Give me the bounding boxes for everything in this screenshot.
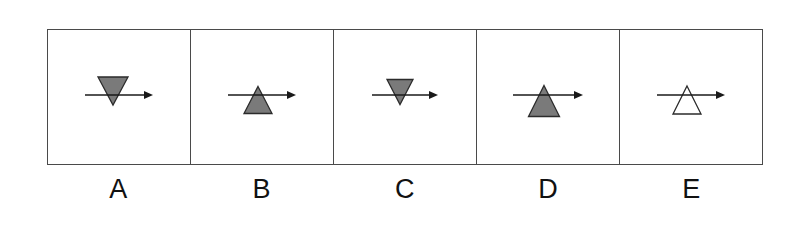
panel-cell-b — [191, 30, 334, 164]
arrow-head — [574, 91, 583, 99]
arrow-head — [144, 91, 153, 99]
arrow-head — [287, 91, 296, 99]
up-triangle-with-right-arrow — [498, 65, 598, 125]
figure-root: A B C D E — [0, 0, 801, 240]
stimulus-d — [498, 65, 598, 129]
panel-label-cell-c: C — [333, 176, 476, 220]
panel-cell-c — [334, 30, 477, 164]
arrow-head — [429, 91, 438, 99]
triangle-up — [244, 87, 272, 114]
panel-label-cell-d: D — [477, 176, 620, 220]
stimulus-a — [69, 65, 169, 129]
triangle-up — [673, 86, 701, 114]
panel-cell-a — [48, 30, 191, 164]
triangle-down — [98, 77, 128, 105]
triangle-up — [529, 86, 560, 117]
panel-label-row: A B C D E — [47, 176, 763, 220]
panel-label-c: C — [395, 176, 415, 203]
up-triangle-outline-with-right-arrow — [641, 65, 741, 125]
panel-label-d: D — [538, 176, 558, 203]
panel-label-cell-e: E — [620, 176, 763, 220]
panel-cell-e — [620, 30, 762, 164]
panel-strip — [47, 29, 763, 165]
panel-label-a: A — [109, 176, 128, 203]
panel-cell-d — [477, 30, 620, 164]
down-triangle-with-right-arrow — [69, 65, 169, 125]
arrow-head — [716, 91, 725, 99]
panel-label-b: B — [253, 176, 272, 203]
up-triangle-with-right-arrow — [212, 65, 312, 125]
panel-label-cell-b: B — [190, 176, 333, 220]
panel-label-cell-a: A — [47, 176, 190, 220]
down-triangle-with-right-arrow — [355, 65, 455, 125]
stimulus-b — [212, 65, 312, 129]
stimulus-c — [355, 65, 455, 129]
panel-label-e: E — [682, 176, 701, 203]
stimulus-e — [641, 65, 741, 129]
triangle-down — [387, 80, 413, 105]
